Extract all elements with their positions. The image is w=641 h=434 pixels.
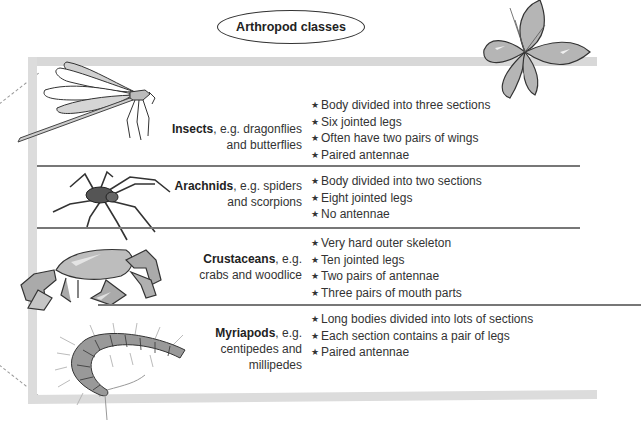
star-icon: ★ (311, 288, 319, 298)
fact-item: ★Paired antennae (311, 345, 533, 362)
fact-item: ★Body divided into three sections (311, 98, 490, 115)
star-icon: ★ (311, 133, 319, 143)
star-icon: ★ (311, 150, 319, 160)
arachnids-label: Arachnids, e.g. spiders and scorpions (140, 178, 302, 210)
star-icon: ★ (311, 193, 319, 203)
star-icon: ★ (311, 176, 319, 186)
fact-item: ★Long bodies divided into lots of sectio… (311, 312, 533, 329)
fact-item: ★Three pairs of mouth parts (311, 286, 462, 303)
myriapods-label: Myriapods, e.g. centipedes and millipede… (140, 325, 302, 373)
fact-item: ★Two pairs of antennae (311, 269, 462, 286)
arachnids-facts: ★Body divided into two sections ★Eight j… (311, 174, 482, 224)
fact-item: ★Paired antennae (311, 148, 490, 165)
class-name: Arachnids (175, 179, 234, 193)
star-icon: ★ (311, 331, 319, 341)
star-icon: ★ (311, 238, 319, 248)
fact-item: ★No antennae (311, 207, 482, 224)
insects-facts: ★Body divided into three sections ★Six j… (311, 98, 490, 164)
star-icon: ★ (311, 271, 319, 281)
fact-item: ★Six jointed legs (311, 115, 490, 132)
star-icon: ★ (311, 314, 319, 324)
class-name: Crustaceans (203, 252, 275, 266)
class-name: Myriapods (215, 326, 275, 340)
dragonfly-illustration (15, 60, 155, 150)
fact-item: ★Ten jointed legs (311, 253, 462, 270)
fact-item: ★Body divided into two sections (311, 174, 482, 191)
page-title: Arthropod classes (236, 20, 346, 34)
crustaceans-label: Crustaceans, e.g. crabs and woodlice (140, 251, 302, 283)
fact-item: ★Each section contains a pair of legs (311, 329, 533, 346)
crustaceans-facts: ★Very hard outer skeleton ★Ten jointed l… (311, 236, 462, 302)
row-divider (37, 227, 580, 229)
star-icon: ★ (311, 255, 319, 265)
class-name: Insects (172, 122, 213, 136)
insects-label: Insects, e.g. dragonflies and butterflie… (140, 121, 302, 153)
row-divider (98, 304, 641, 306)
star-icon: ★ (311, 209, 319, 219)
star-icon: ★ (311, 347, 319, 357)
star-icon: ★ (311, 117, 319, 127)
title-oval: Arthropod classes (217, 10, 365, 44)
myriapods-facts: ★Long bodies divided into lots of sectio… (311, 312, 533, 362)
fact-item: ★Very hard outer skeleton (311, 236, 462, 253)
star-icon: ★ (311, 100, 319, 110)
butterfly-illustration (480, 0, 597, 100)
fact-item: ★Eight jointed legs (311, 191, 482, 208)
fact-item: ★Often have two pairs of wings (311, 131, 490, 148)
